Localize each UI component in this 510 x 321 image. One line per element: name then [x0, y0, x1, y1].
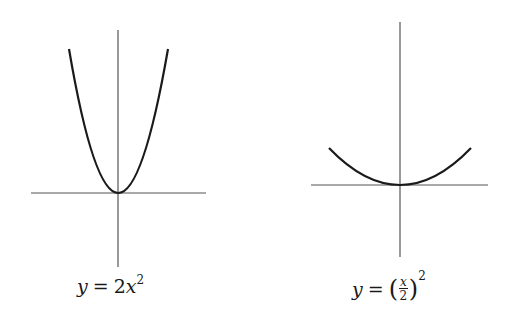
- left-label-var: x: [126, 275, 137, 297]
- graph-right: [311, 22, 488, 257]
- parabola-diagram: [0, 0, 510, 321]
- right-label-y: y: [352, 278, 363, 300]
- left-label-coef: 2: [114, 275, 126, 297]
- right-label-open-paren: (: [389, 275, 398, 303]
- left-label-equals: =: [93, 275, 109, 297]
- left-label-exponent: 2: [136, 273, 144, 287]
- right-label-equals: =: [368, 278, 384, 300]
- right-label-numerator: x: [399, 276, 408, 289]
- left-equation-label: y=2x2: [77, 277, 144, 296]
- right-equation-label: y=(x2)2: [352, 278, 426, 304]
- right-label-exponent: 2: [418, 269, 426, 283]
- right-label-close-paren: ): [409, 275, 418, 303]
- graph-left: [31, 30, 206, 267]
- right-label-denominator: 2: [400, 289, 408, 302]
- left-label-y: y: [77, 275, 88, 297]
- right-label-fraction: x2: [399, 276, 408, 302]
